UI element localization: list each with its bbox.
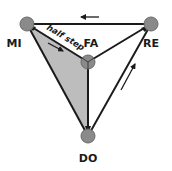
label-do: DO: [79, 152, 97, 165]
node-do: [81, 129, 95, 143]
tetrahedron-diagram: MI RE FA DO half step: [0, 0, 172, 171]
arrow-do-re: [121, 64, 135, 90]
label-mi: MI: [6, 37, 21, 50]
node-re: [144, 17, 158, 31]
node-mi: [20, 17, 34, 31]
label-re: RE: [143, 37, 159, 50]
